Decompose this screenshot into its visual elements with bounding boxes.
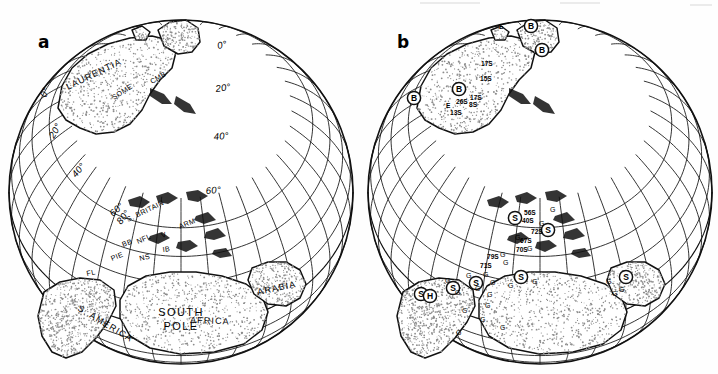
value-label-8: 56S xyxy=(524,209,536,216)
panel-b: b BBBBSSSSSSHS17S15S17SE26S8S13SE56S40S7… xyxy=(359,0,718,374)
g-marker-1: G xyxy=(539,220,544,227)
g-marker-5: G xyxy=(503,259,508,266)
globe-a: 0°20°40°60°0°20°40°60°80°LAURENTIAS. AME… xyxy=(0,0,359,374)
svg-text:S: S xyxy=(545,225,551,235)
marker-b-1: B xyxy=(535,43,548,56)
g-marker-20: G xyxy=(606,278,611,285)
latitude-label-2: 40° xyxy=(213,130,229,142)
terrane-label-7: IB xyxy=(162,244,171,254)
g-marker-22: G xyxy=(612,290,617,297)
g-marker-7: G xyxy=(466,272,471,279)
svg-text:B: B xyxy=(539,45,545,55)
value-label-10: 72S xyxy=(531,228,543,235)
value-label-13: 79S xyxy=(487,253,499,260)
terrane-label-10: FL xyxy=(86,267,97,278)
marker-b-0: B xyxy=(524,19,537,32)
g-marker-10: G xyxy=(475,285,480,292)
marker-b-2: B xyxy=(452,82,465,95)
g-marker-8: G xyxy=(445,277,450,284)
g-marker-0: G xyxy=(550,206,555,213)
svg-text:B: B xyxy=(456,84,462,94)
value-label-9: 40S xyxy=(522,217,534,224)
g-marker-3: G xyxy=(527,245,532,252)
g-marker-12: G xyxy=(532,278,537,285)
latitude-label-3: 60° xyxy=(205,184,221,196)
g-marker-13: G xyxy=(455,289,460,296)
south-pole-label-line2: POLE xyxy=(164,320,199,332)
svg-text:S: S xyxy=(512,213,518,223)
value-label-11: 67S xyxy=(520,237,532,244)
panel-a: a 0°20°40°60°0°20°40°60°80°LAURENTIAS. A… xyxy=(0,0,359,374)
g-marker-19: G xyxy=(456,329,461,336)
g-marker-14: G xyxy=(487,291,492,298)
marker-s-11: S xyxy=(619,270,632,283)
marker-b-3: B xyxy=(407,91,420,104)
svg-text:H: H xyxy=(427,291,433,301)
latitude-label-1: 20° xyxy=(214,81,232,94)
svg-text:S: S xyxy=(623,272,629,282)
g-marker-2: G xyxy=(515,234,520,241)
value-label-0: 17S xyxy=(481,60,493,67)
value-label-14: 71S xyxy=(480,262,492,269)
g-marker-9: G xyxy=(490,279,495,286)
value-label-1: 15S xyxy=(480,75,492,82)
g-marker-16: G xyxy=(462,307,467,314)
value-label-4: 26S xyxy=(456,98,468,105)
value-label-7: E xyxy=(499,23,504,30)
figure-root: a 0°20°40°60°0°20°40°60°80°LAURENTIAS. A… xyxy=(0,0,718,374)
g-marker-4: G xyxy=(500,251,505,258)
g-marker-15: G xyxy=(485,302,490,309)
south-pole-label-line1: SOUTH xyxy=(158,306,204,318)
svg-text:S: S xyxy=(518,272,524,282)
marker-s-4: S xyxy=(508,211,521,224)
globe-b: BBBBSSSSSSHS17S15S17SE26S8S13SE56S40S72S… xyxy=(359,0,718,374)
svg-text:B: B xyxy=(528,21,534,31)
value-label-3: E xyxy=(446,102,451,109)
g-marker-17: G xyxy=(480,316,485,323)
g-marker-11: G xyxy=(508,282,513,289)
g-marker-6: G xyxy=(483,271,488,278)
g-marker-18: G xyxy=(500,324,505,331)
value-label-2: 17S xyxy=(470,94,482,101)
value-label-5: 8S xyxy=(469,101,478,108)
marker-s-6: S xyxy=(514,270,527,283)
g-marker-21: G xyxy=(619,286,624,293)
svg-text:B: B xyxy=(411,93,417,103)
marker-h-10: H xyxy=(423,289,436,302)
value-label-6: 13S xyxy=(450,109,462,116)
